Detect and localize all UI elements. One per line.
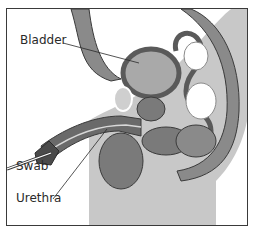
prostate <box>137 97 165 121</box>
buttock-tissue <box>176 125 216 157</box>
abdominal-wall <box>71 9 121 81</box>
testis-region <box>99 133 143 189</box>
bladder-organ <box>123 49 179 97</box>
rectum-lumen-1 <box>184 42 208 70</box>
rectum-lumen-2 <box>186 83 216 119</box>
urethra-label: Urethra <box>16 192 61 204</box>
pubic-bone <box>114 87 132 111</box>
bladder-label: Bladder <box>20 34 66 46</box>
swab-label: Swab <box>16 160 48 172</box>
